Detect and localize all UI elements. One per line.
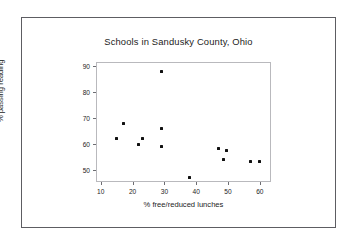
x-tick-label: 30	[154, 188, 174, 195]
y-tick-mark	[93, 170, 96, 171]
y-tick-label: 50	[74, 167, 90, 174]
y-axis-label: % passing reading	[0, 60, 5, 122]
data-point	[137, 143, 140, 146]
data-point	[160, 145, 163, 148]
x-tick-label: 40	[186, 188, 206, 195]
x-tick-label: 10	[91, 188, 111, 195]
x-axis-label: % free/reduced lunches	[96, 200, 271, 209]
chart-title: Schools in Sandusky County, Ohio	[21, 36, 336, 47]
data-point	[258, 160, 261, 163]
y-tick-mark	[93, 118, 96, 119]
data-point	[160, 127, 163, 130]
data-point	[225, 149, 228, 152]
y-tick-label: 90	[74, 62, 90, 69]
x-tick-mark	[164, 182, 165, 185]
data-point	[141, 137, 144, 140]
x-tick-mark	[260, 182, 261, 185]
data-point	[222, 158, 225, 161]
data-point	[217, 147, 220, 150]
x-tick-label: 50	[218, 188, 238, 195]
y-tick-mark	[93, 144, 96, 145]
y-tick-label: 80	[74, 89, 90, 96]
y-tick-mark	[93, 92, 96, 93]
data-point	[249, 160, 252, 163]
figure-canvas: Schools in Sandusky County, Ohio 5060708…	[0, 0, 356, 242]
x-tick-label: 20	[123, 188, 143, 195]
data-point	[160, 70, 163, 73]
y-tick-mark	[93, 66, 96, 67]
x-tick-mark	[133, 182, 134, 185]
x-tick-label: 60	[250, 188, 270, 195]
x-tick-mark	[101, 182, 102, 185]
data-point	[122, 122, 125, 125]
x-tick-mark	[196, 182, 197, 185]
data-point	[188, 176, 191, 179]
x-tick-mark	[228, 182, 229, 185]
y-tick-label: 70	[74, 115, 90, 122]
y-tick-label: 60	[74, 141, 90, 148]
